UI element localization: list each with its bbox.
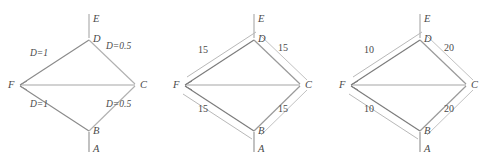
vertex-f-tick-upper (351, 81, 358, 85)
edge-label-d-c: 20 (444, 43, 454, 53)
node-label-e: E (258, 14, 264, 25)
node-label-c: C (471, 80, 478, 91)
node-label-c: C (305, 80, 312, 91)
edge-label-f-d: 15 (198, 45, 208, 55)
node-label-b: B (424, 126, 430, 137)
node-label-a: A (258, 144, 264, 155)
diagram-1-edges (20, 14, 135, 152)
node-label-d: D (258, 34, 266, 45)
edge-label-f-b: 10 (364, 104, 374, 114)
node-label-a: A (93, 144, 99, 155)
vertex-f-tick-lower (185, 86, 192, 90)
vertex-f-tick-lower (351, 86, 358, 90)
node-label-f: F (8, 80, 14, 91)
edge-label-b-c: 15 (278, 104, 288, 114)
edge-f-d (20, 40, 89, 85)
node-label-b: B (93, 126, 99, 137)
edge-label-f-b: D=1 (30, 100, 48, 110)
vertex-f-tick-lower (20, 86, 27, 90)
node-label-c: C (140, 80, 147, 91)
edge-f-d (351, 40, 420, 85)
diagram-2-edges (183, 14, 307, 152)
node-label-f: F (173, 80, 179, 91)
diagram-weights-10-20: E D F C B A 10 20 10 20 (331, 0, 496, 163)
edge-f-b (185, 86, 254, 131)
node-label-f: F (339, 80, 345, 91)
edge-label-f-b: 15 (198, 104, 208, 114)
diagram-3-edges (349, 14, 473, 152)
edge-label-d-c: D=0.5 (106, 42, 131, 52)
node-label-d: D (93, 34, 101, 45)
edge-label-b-c: D=0.5 (106, 100, 131, 110)
node-label-e: E (424, 14, 430, 25)
edge-label-f-d: D=1 (30, 49, 48, 59)
edge-f-d (185, 40, 254, 85)
node-label-b: B (258, 126, 264, 137)
edge-label-d-c: 15 (278, 43, 288, 53)
figure-root: E D F C B A D=1 D=0.5 D=1 D=0.5 (0, 0, 496, 163)
edge-f-b-parallel (349, 94, 418, 139)
diagram-distance-weights: E D F C B A D=1 D=0.5 D=1 D=0.5 (0, 0, 165, 163)
node-label-d: D (424, 34, 432, 45)
vertex-f-tick-upper (185, 81, 192, 85)
edge-f-b-parallel (183, 94, 252, 139)
edge-label-f-d: 10 (364, 45, 374, 55)
edge-d-c (420, 40, 466, 84)
vertex-f-tick-upper (20, 81, 27, 85)
node-label-a: A (424, 144, 430, 155)
node-label-e: E (93, 14, 99, 25)
edge-d-c (254, 40, 300, 84)
diagram-weights-15: E D F C B A 15 15 15 15 (165, 0, 330, 163)
edge-f-b (351, 86, 420, 131)
edge-label-b-c: 20 (444, 104, 454, 114)
